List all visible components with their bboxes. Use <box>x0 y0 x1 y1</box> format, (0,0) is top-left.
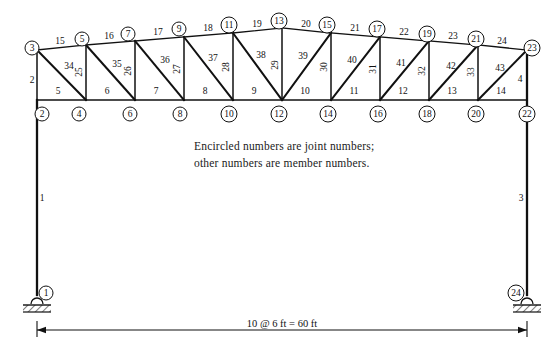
member-label-41: 41 <box>396 58 406 68</box>
joint-15: 15 <box>319 17 335 33</box>
joint-label-8: 8 <box>178 109 183 119</box>
joint-22: 22 <box>519 106 535 122</box>
member-label-17: 17 <box>153 27 163 37</box>
joint-label-4: 4 <box>77 109 82 119</box>
member-label-33: 33 <box>466 67 476 77</box>
member-label-28: 28 <box>221 62 231 72</box>
member-label-18: 18 <box>203 23 213 33</box>
joint-label-19: 19 <box>422 29 432 39</box>
member-18 <box>184 33 233 37</box>
member-label-11: 11 <box>349 86 358 96</box>
joint-6: 6 <box>123 107 137 121</box>
joint-label-1: 1 <box>44 288 49 298</box>
member-label-4: 4 <box>518 74 523 84</box>
member-label-38: 38 <box>256 50 266 60</box>
member-label-27: 27 <box>172 64 182 74</box>
member-label-30: 30 <box>319 62 329 72</box>
joint-11: 11 <box>221 17 237 33</box>
joint-label-20: 20 <box>471 109 481 119</box>
joint-label-3: 3 <box>30 43 35 53</box>
joint-17: 17 <box>369 21 385 37</box>
joint-24: 24 <box>508 285 524 301</box>
joint-label-15: 15 <box>322 20 332 30</box>
member-label-31: 31 <box>368 64 378 74</box>
joint-1: 1 <box>39 286 53 300</box>
supports-layer <box>23 298 541 312</box>
member-label-42: 42 <box>446 61 456 71</box>
member-label-15: 15 <box>55 36 65 46</box>
joint-8: 8 <box>173 107 187 121</box>
joint-3: 3 <box>25 41 39 55</box>
member-label-29: 29 <box>270 60 280 70</box>
member-16 <box>86 41 135 45</box>
member-label-35: 35 <box>112 59 122 69</box>
member-label-12: 12 <box>398 86 408 96</box>
dimension-label: 10 @ 6 ft = 60 ft <box>247 318 318 329</box>
joint-label-12: 12 <box>274 109 284 119</box>
joint-14: 14 <box>320 106 336 122</box>
joint-12: 12 <box>271 106 287 122</box>
member-label-24: 24 <box>497 36 507 46</box>
member-label-3: 3 <box>519 193 524 203</box>
member-label-36: 36 <box>160 55 170 65</box>
member-label-40: 40 <box>347 55 357 65</box>
joint-label-13: 13 <box>274 16 284 26</box>
member-label-13: 13 <box>447 86 457 96</box>
member-label-5: 5 <box>56 86 61 96</box>
joint-9: 9 <box>172 22 186 36</box>
joint-label-9: 9 <box>177 24 182 34</box>
joint-23: 23 <box>524 40 540 56</box>
member-label-7: 7 <box>154 86 159 96</box>
joint-label-2: 2 <box>40 109 45 119</box>
joint-16: 16 <box>370 106 386 122</box>
member-label-23: 23 <box>448 31 458 41</box>
joint-18: 18 <box>419 106 435 122</box>
member-label-26: 26 <box>123 66 133 76</box>
joint-5: 5 <box>75 32 89 46</box>
member-label-19: 19 <box>252 19 262 29</box>
member-label-6: 6 <box>105 86 110 96</box>
figure-canvas: 1234567891011121314151617181920212223242… <box>0 0 560 360</box>
joint-label-18: 18 <box>422 109 432 119</box>
member-label-37: 37 <box>208 53 218 63</box>
member-label-34: 34 <box>64 61 74 71</box>
member-label-14: 14 <box>496 86 506 96</box>
joint-7: 7 <box>121 27 135 41</box>
member-label-25: 25 <box>74 67 84 77</box>
member-label-9: 9 <box>252 86 257 96</box>
joint-label-7: 7 <box>126 29 131 39</box>
joint-19: 19 <box>419 26 435 42</box>
member-label-22: 22 <box>399 27 409 37</box>
joint-label-6: 6 <box>128 109 133 119</box>
member-label-10: 10 <box>300 86 310 96</box>
joint-label-10: 10 <box>224 109 234 119</box>
joint-2: 2 <box>35 107 49 121</box>
member-label-2: 2 <box>30 75 35 85</box>
joint-label-16: 16 <box>373 109 383 119</box>
joint-label-5: 5 <box>80 34 85 44</box>
legend-line-1: Encircled numbers are joint numbers; <box>194 140 374 152</box>
joint-label-11: 11 <box>224 20 233 30</box>
joint-4: 4 <box>72 107 86 121</box>
truss-diagram: 1234567891011121314151617181920212223242… <box>0 0 560 360</box>
member-label-32: 32 <box>417 66 427 76</box>
member-label-16: 16 <box>104 31 114 41</box>
legend-line-2: other numbers are member numbers. <box>194 157 370 169</box>
joint-label-23: 23 <box>527 43 537 53</box>
member-label-43: 43 <box>495 63 505 73</box>
joint-13: 13 <box>271 13 287 29</box>
member-label-20: 20 <box>301 19 311 29</box>
member-label-21: 21 <box>350 23 360 33</box>
dimension-line: 10 @ 6 ft = 60 ft <box>37 318 527 337</box>
joint-label-21: 21 <box>471 34 481 44</box>
joint-label-24: 24 <box>511 288 521 298</box>
member-label-8: 8 <box>203 86 208 96</box>
joint-10: 10 <box>221 106 237 122</box>
joint-label-17: 17 <box>372 24 382 34</box>
joint-20: 20 <box>468 106 484 122</box>
member-17 <box>135 37 184 41</box>
joint-label-14: 14 <box>323 109 333 119</box>
joint-21: 21 <box>468 31 484 47</box>
member-label-39: 39 <box>298 51 308 61</box>
member-label-1: 1 <box>40 193 45 203</box>
